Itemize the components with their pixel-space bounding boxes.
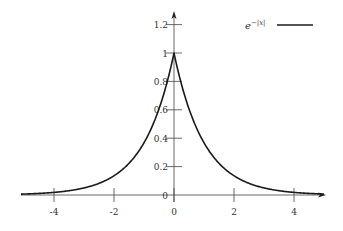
x-tick-label: -2 bbox=[110, 207, 119, 217]
x-tick-label: 4 bbox=[291, 207, 297, 217]
y-tick-label: 0.6 bbox=[154, 105, 169, 115]
y-tick-label: 1 bbox=[162, 49, 168, 59]
x-tick-label: 0 bbox=[171, 207, 177, 217]
legend-exponent: −|x| bbox=[251, 19, 266, 27]
legend-label: e−|x| bbox=[245, 19, 265, 31]
series-line bbox=[21, 53, 324, 194]
y-axis: 00.20.40.60.811.2 bbox=[154, 11, 182, 202]
legend: e−|x| bbox=[245, 19, 313, 31]
y-tick-label: 0 bbox=[162, 191, 168, 201]
y-tick-label: 0.4 bbox=[154, 134, 169, 144]
plot-series bbox=[21, 53, 324, 194]
x-tick-label: -4 bbox=[50, 207, 59, 217]
y-tick-label: 0.2 bbox=[154, 162, 168, 172]
y-tick-label: 1.2 bbox=[154, 20, 168, 30]
x-axis: -4-2024 bbox=[21, 188, 326, 217]
chart-canvas: -4-2024 00.20.40.60.811.2 e−|x| bbox=[0, 0, 343, 231]
x-tick-label: 2 bbox=[231, 207, 237, 217]
